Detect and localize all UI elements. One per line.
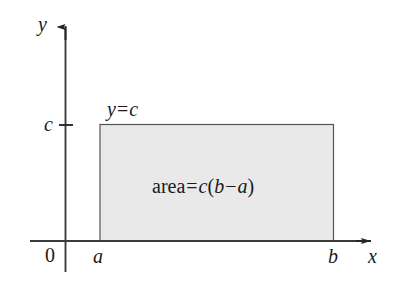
figure-canvas [0, 0, 393, 286]
origin-label: 0 [45, 245, 55, 265]
area-formula-lower-bound: a [237, 175, 247, 197]
area-formula-word: area [152, 175, 185, 197]
area-formula-upper-bound: b [214, 175, 224, 197]
area-formula-label: area=c(b−a) [152, 176, 254, 196]
curve-label: y=c [107, 99, 138, 119]
area-formula-close-paren: ) [247, 175, 254, 197]
curve-label-value: c [129, 98, 138, 120]
area-formula-equals: = [185, 175, 198, 197]
curve-label-function: y [107, 98, 116, 120]
area-formula-minus: − [224, 175, 237, 197]
y-tick-label-c: c [44, 114, 53, 134]
y-axis-label: y [38, 14, 47, 34]
x-tick-label-a: a [93, 246, 103, 266]
x-axis-label: x [368, 246, 377, 266]
x-tick-label-b: b [328, 246, 338, 266]
curve-label-equals: = [116, 98, 129, 120]
math-figure: y x 0 c a b y=c area=c(b−a) [0, 0, 393, 286]
